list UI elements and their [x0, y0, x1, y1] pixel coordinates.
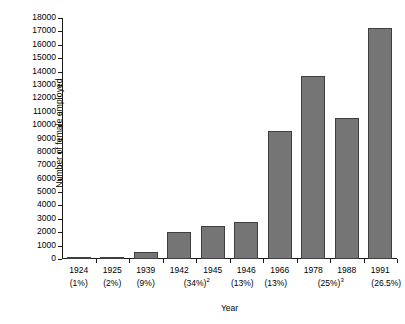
- bar: [268, 131, 292, 259]
- x-tick-mark: [297, 259, 298, 263]
- bar: [201, 226, 225, 259]
- y-tick-label: 11000: [33, 106, 56, 116]
- y-tick-label: 9000: [37, 133, 56, 143]
- x-tick-label-percent: (26.5%): [370, 276, 404, 290]
- x-tick-label-year: 1925: [96, 264, 130, 276]
- y-tick-label: 8000: [37, 146, 56, 156]
- x-tick-label-group: 1966(13%): [263, 264, 297, 290]
- x-tick-label-group: 1924(1%): [62, 264, 96, 290]
- x-tick-mark: [330, 259, 331, 263]
- x-tick-label-percent: (25%)3: [314, 276, 348, 290]
- x-tick-label-group: 1991(26.5%): [364, 264, 398, 290]
- y-tick-label: 14000: [32, 66, 56, 76]
- y-tick-label: 3000: [37, 213, 56, 223]
- y-tick-label: 12000: [32, 92, 56, 102]
- x-tick-label-year: 1978: [297, 264, 331, 276]
- x-tick-label-group: 1939(9%): [129, 264, 163, 290]
- x-tick-label-year: 1988: [330, 264, 364, 276]
- x-tick-mark: [397, 259, 398, 263]
- x-tick-label-group: 1945(34%)2: [196, 264, 230, 290]
- bar: [134, 252, 158, 259]
- y-tick-label: 13000: [32, 79, 56, 89]
- x-tick-label-year: 1966: [263, 264, 297, 276]
- y-tick-label: 2000: [37, 226, 56, 236]
- y-tick-label: 15000: [32, 52, 56, 62]
- bar: [335, 118, 359, 259]
- x-tick-label-percent: (13%): [259, 276, 293, 290]
- x-tick-label-year: 1942: [163, 264, 197, 276]
- footnote-marker: 2: [206, 277, 209, 283]
- y-tick-label: 16000: [32, 39, 56, 49]
- x-tick-label-year: 1991: [364, 264, 398, 276]
- x-tick-label-group: 1946(13%): [230, 264, 264, 290]
- x-tick-label-percent: (1%): [62, 276, 96, 290]
- x-tick-label-percent: (34%)2: [180, 276, 214, 290]
- x-tick-label-year: 1946: [230, 264, 264, 276]
- y-axis-ticks: 0100020003000400050006000700080009000100…: [0, 18, 62, 259]
- y-tick-label: 4000: [37, 199, 56, 209]
- y-tick-label: 18000: [32, 12, 56, 22]
- y-tick-label: 5000: [37, 186, 56, 196]
- x-tick-label-group: 1988(25%)3: [330, 264, 364, 290]
- x-tick-mark: [263, 259, 264, 263]
- x-tick-mark: [230, 259, 231, 263]
- x-tick-mark: [129, 259, 130, 263]
- x-tick-label-percent: (2%): [96, 276, 130, 290]
- y-tick-label: 17000: [32, 25, 56, 35]
- bar: [368, 28, 392, 259]
- x-tick-mark: [96, 259, 97, 263]
- y-tick-label: 0: [51, 253, 56, 263]
- x-axis-labels: 1924(1%)1925(2%)1939(9%)1942 1945(34%)21…: [62, 264, 397, 304]
- x-tick-mark: [163, 259, 164, 263]
- bar: [234, 222, 258, 259]
- y-tick-label: 6000: [37, 173, 56, 183]
- footnote-marker: 3: [340, 277, 343, 283]
- y-tick-label: 10000: [32, 119, 56, 129]
- bar: [167, 232, 191, 259]
- x-axis-title: Year: [62, 303, 397, 313]
- y-tick-label: 7000: [37, 159, 56, 169]
- y-tick-label: 1000: [37, 240, 56, 250]
- bar-series: [62, 18, 397, 259]
- x-tick-label-percent: (13%): [226, 276, 260, 290]
- x-tick-label-year: 1945: [196, 264, 230, 276]
- bar-chart: Number of female employed 01000200030004…: [0, 0, 405, 324]
- x-tick-mark: [364, 259, 365, 263]
- x-tick-label-year: 1939: [129, 264, 163, 276]
- x-tick-label-percent: (9%): [129, 276, 163, 290]
- bar: [301, 76, 325, 259]
- x-tick-label-year: 1924: [62, 264, 96, 276]
- x-tick-label-group: 1925(2%): [96, 264, 130, 290]
- x-tick-mark: [196, 259, 197, 263]
